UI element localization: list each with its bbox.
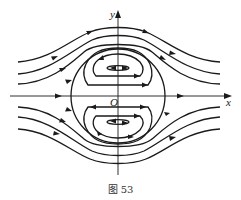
figure-caption: 图 53 (0, 181, 241, 196)
flow-arrow-icon (177, 94, 184, 99)
streamline-diagram: y x O (0, 0, 241, 200)
x-axis-label: x (225, 96, 231, 108)
origin-label: O (110, 96, 118, 108)
y-axis-arrow-icon (115, 10, 121, 18)
y-axis-label: y (109, 8, 115, 20)
flow-arrow-icon (55, 94, 62, 99)
axes (10, 10, 232, 175)
